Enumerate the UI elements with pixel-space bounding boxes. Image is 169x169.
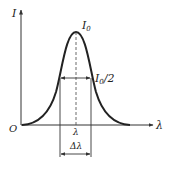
line-width-label: Δλ	[69, 141, 82, 151]
line-profile-diagram: I λ O I0 I0/2 λ Δλ	[0, 0, 169, 169]
x-axis-label: λ	[155, 119, 163, 132]
y-axis-label: I	[11, 7, 17, 20]
peak-label: I0	[81, 19, 91, 33]
center-wavelength-label: λ	[72, 127, 79, 137]
half-max-label: I0/2	[94, 72, 115, 86]
origin-label: O	[9, 123, 17, 134]
